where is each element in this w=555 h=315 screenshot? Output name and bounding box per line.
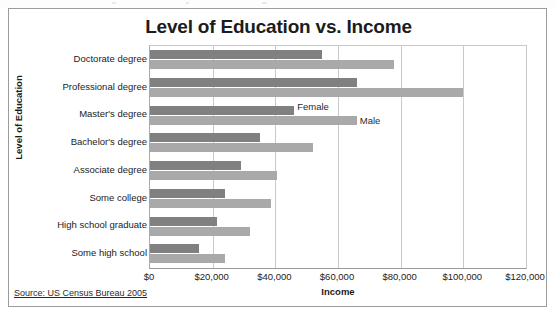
y-axis-category-label: Associate degree	[19, 164, 147, 175]
bar-group-row	[150, 74, 526, 102]
bar-group-row: FemaleMale	[150, 102, 526, 130]
x-axis-title: Income	[149, 286, 527, 297]
bar-female[interactable]	[150, 189, 225, 198]
gridline	[526, 46, 527, 268]
bar-female[interactable]	[150, 78, 357, 87]
bar-female[interactable]	[150, 244, 199, 253]
scan-speck	[262, 2, 267, 4]
y-axis-category-label: Professional degree	[19, 81, 147, 92]
x-axis-tick-label: $80,000	[382, 271, 416, 283]
x-axis-tick-label: $40,000	[257, 271, 291, 283]
chart-title: Level of Education vs. Income	[9, 16, 548, 38]
bar-male[interactable]	[150, 254, 225, 263]
bar-group-row	[150, 240, 526, 268]
bar-group-row	[150, 213, 526, 241]
x-axis-tick-label: $60,000	[320, 271, 354, 283]
x-axis-tick-labels: $0$20,000$40,000$60,000$80,000$100,000$1…	[9, 271, 548, 287]
bar-male[interactable]	[150, 199, 271, 208]
scan-speck	[186, 2, 189, 4]
bar-female[interactable]	[150, 106, 294, 115]
x-axis-tick-label: $20,000	[194, 271, 228, 283]
x-axis-tick-label: $0	[144, 271, 155, 283]
bar-female[interactable]	[150, 133, 260, 142]
bar-female[interactable]	[150, 50, 322, 59]
bar-group-row	[150, 129, 526, 157]
bar-group-row	[150, 185, 526, 213]
y-axis-category-label: Bachelor's degree	[19, 136, 147, 147]
bar-male[interactable]	[150, 60, 394, 69]
bar-male[interactable]	[150, 143, 313, 152]
y-axis-category-labels: Doctorate degreeProfessional degreeMaste…	[19, 45, 147, 267]
bar-female[interactable]	[150, 161, 241, 170]
bar-group-row	[150, 46, 526, 74]
scan-speck	[112, 2, 116, 4]
bar-rows: FemaleMale	[150, 46, 526, 268]
series-label-male: Male	[357, 115, 383, 126]
scan-artifact-strip	[0, 0, 555, 7]
y-axis-category-label: Doctorate degree	[19, 53, 147, 64]
chart-container: Level of Education vs. Income Level of E…	[8, 8, 547, 307]
source-note: Source: US Census Bureau 2005	[14, 288, 147, 298]
bar-female[interactable]	[150, 217, 217, 226]
y-axis-category-label: Some high school	[19, 247, 147, 258]
bar-male[interactable]	[150, 171, 277, 180]
plot-area: FemaleMale	[149, 45, 527, 269]
bar-group-row	[150, 157, 526, 185]
bar-male[interactable]	[150, 227, 250, 236]
series-label-female: Female	[294, 101, 331, 112]
x-axis-tick-label: $120,000	[505, 271, 545, 283]
y-axis-category-label: Some college	[19, 192, 147, 203]
bar-male[interactable]	[150, 88, 463, 97]
bar-male[interactable]	[150, 116, 357, 125]
x-axis-tick-label: $100,000	[443, 271, 483, 283]
y-axis-category-label: Master's degree	[19, 108, 147, 119]
y-axis-category-label: High school graduate	[19, 219, 147, 230]
